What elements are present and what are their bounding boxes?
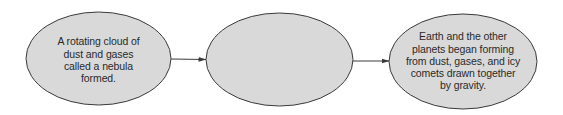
node-1-line-2: dust and gases xyxy=(57,48,139,60)
arrow-node1-to-node2 xyxy=(171,59,206,60)
node-3-line-2: planets began forming xyxy=(406,43,520,55)
node-3-line-1: Earth and the other xyxy=(406,30,520,42)
flow-node-2-text xyxy=(220,34,339,86)
flow-node-3-text: Earth and the other planets began formin… xyxy=(396,29,530,93)
node-3-line-3: from dust, gases, and icy xyxy=(406,55,520,67)
node-1-line-4: formed. xyxy=(57,72,139,84)
flow-node-1-text: A rotating cloud of dust and gases calle… xyxy=(40,34,157,86)
node-3-line-4: comets drawn together xyxy=(406,67,520,79)
node-1-line-3: called a nebula xyxy=(57,60,139,72)
node-1-line-1: A rotating cloud of xyxy=(57,35,139,47)
node-3-line-5: by gravity. xyxy=(406,79,520,91)
